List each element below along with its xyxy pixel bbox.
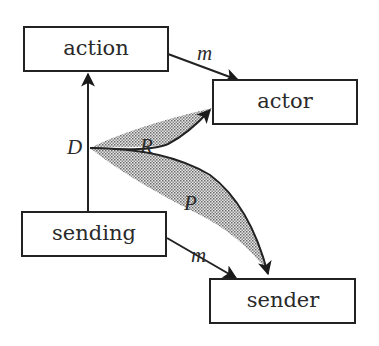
label-m-top: m <box>197 41 212 65</box>
edge-action-to-actor: m <box>168 41 238 80</box>
node-actor-label: actor <box>257 89 313 113</box>
label-m-bottom: m <box>191 243 206 267</box>
edge-sending-to-sender: m <box>167 238 236 278</box>
anchor-label-d: D <box>66 135 82 159</box>
node-sender-label: sender <box>247 288 321 312</box>
node-sender: sender <box>210 279 355 323</box>
node-sending: sending <box>22 212 166 256</box>
label-p: P <box>183 191 197 215</box>
node-sending-label: sending <box>52 221 136 245</box>
node-action: action <box>24 27 168 71</box>
node-actor: actor <box>213 80 357 124</box>
node-action-label: action <box>63 36 129 60</box>
diagram-canvas: R P D m m action actor sending sender <box>0 0 379 346</box>
